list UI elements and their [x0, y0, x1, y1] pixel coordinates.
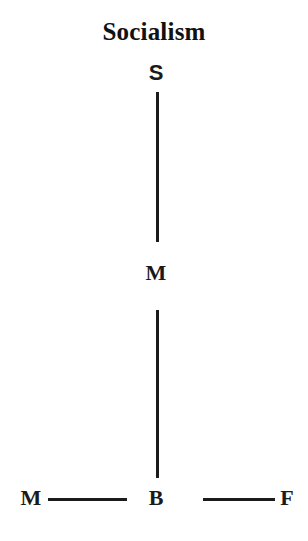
- edge-s-to-m: [156, 92, 159, 242]
- edge-b-to-f: [203, 498, 275, 501]
- edge-m-to-b: [156, 310, 159, 478]
- node-s-label: S: [2, 62, 308, 84]
- diagram-title: Socialism: [0, 18, 308, 46]
- node-m-middle-label: M: [2, 262, 308, 284]
- node-f-label: F: [272, 487, 302, 509]
- diagram-canvas: Socialism S M M B F: [0, 0, 308, 541]
